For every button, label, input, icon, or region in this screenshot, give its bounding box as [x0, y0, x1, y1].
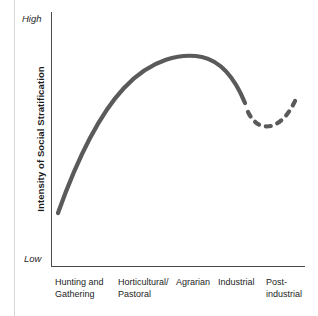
data-curve-dashed	[248, 99, 296, 126]
chart-figure: Intensity of Social Stratification High …	[0, 0, 318, 316]
plot-area	[0, 0, 318, 316]
data-curve-solid	[58, 56, 245, 213]
